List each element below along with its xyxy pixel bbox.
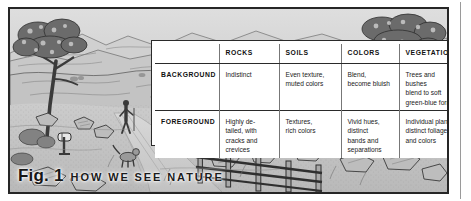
cell-foreground-colors: Vivid hues, distinct bands and separatio…: [341, 111, 399, 158]
figure-number: Fig. 1: [18, 166, 64, 186]
cell-background-vegetation: Trees and bushes blend to soft green-blu…: [399, 63, 449, 110]
comparison-table: ROCKS SOILS COLORS VEGETATION BACKGROUND…: [151, 40, 449, 146]
table-header-row: ROCKS SOILS COLORS VEGETATION: [155, 44, 449, 63]
figure-title: HOW WE SEE NATURE: [71, 171, 224, 183]
cell-background-rocks: Indistinct: [219, 63, 279, 110]
cell-foreground-vegetation: Individual plants, distinct foliage and …: [399, 111, 449, 158]
table-row: BACKGROUND Indistinct Even texture, mute…: [155, 63, 449, 110]
row-header-foreground: FOREGROUND: [155, 111, 219, 158]
table-corner-cell: [155, 44, 219, 63]
column-header-soils: SOILS: [279, 44, 341, 63]
page-margin-rule: [460, 2, 461, 199]
column-header-rocks: ROCKS: [219, 44, 279, 63]
cell-background-colors: Blend, become bluish: [341, 63, 399, 110]
cell-background-soils: Even texture, muted colors: [279, 63, 341, 110]
table-row: FOREGROUND Highly de- tailed, with crack…: [155, 111, 449, 158]
cell-foreground-soils: Textures, rich colors: [279, 111, 341, 158]
column-header-vegetation: VEGETATION: [399, 44, 449, 63]
row-header-background: BACKGROUND: [155, 63, 219, 110]
figure-frame: ROCKS SOILS COLORS VEGETATION BACKGROUND…: [8, 7, 449, 194]
figure-caption: Fig. 1 HOW WE SEE NATURE: [18, 166, 224, 186]
cell-foreground-rocks: Highly de- tailed, with cracks and crevi…: [219, 111, 279, 158]
matrix-table: ROCKS SOILS COLORS VEGETATION BACKGROUND…: [155, 44, 449, 158]
page-canvas: ROCKS SOILS COLORS VEGETATION BACKGROUND…: [0, 0, 471, 201]
column-header-colors: COLORS: [341, 44, 399, 63]
